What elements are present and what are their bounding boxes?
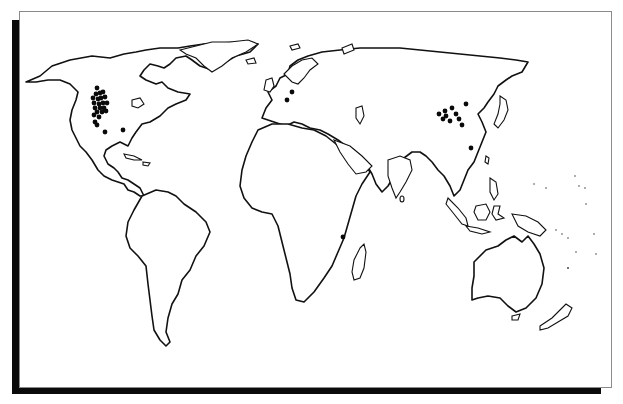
site-marker-dot: [105, 101, 110, 106]
site-marker-dot: [92, 101, 97, 106]
site-marker-dot: [454, 112, 459, 117]
cuba: [124, 154, 142, 160]
philippines: [490, 178, 498, 200]
site-marker-dot: [290, 90, 295, 95]
new-zealand: [540, 304, 572, 330]
site-marker-dot: [103, 130, 108, 135]
site-marker-dot: [341, 235, 346, 240]
site-marker-dot: [97, 115, 102, 120]
java: [466, 226, 490, 234]
site-marker-dot: [285, 98, 290, 103]
pacific-island-specks: [533, 175, 597, 269]
site-marker-dot: [100, 110, 105, 115]
site-marker-dot: [437, 112, 442, 117]
site-marker-dot: [103, 95, 108, 100]
site-marker-dot: [95, 86, 100, 91]
sumatra: [446, 198, 468, 226]
new-guinea: [512, 214, 546, 236]
site-marker-dot: [441, 117, 446, 122]
site-marker-dot: [92, 113, 97, 118]
world-map: [0, 0, 623, 404]
sri-lanka: [400, 196, 404, 202]
continents: [26, 40, 572, 346]
madagascar: [352, 244, 366, 280]
site-marker-dot: [94, 92, 99, 97]
site-marker-dot: [469, 146, 474, 151]
japan: [494, 96, 508, 128]
sulawesi: [492, 206, 504, 220]
site-marker-dot: [104, 109, 109, 114]
south-america: [126, 190, 210, 346]
svalbard: [290, 44, 300, 50]
greenland: [180, 40, 258, 72]
borneo: [474, 204, 490, 220]
australia: [472, 236, 544, 312]
site-marker-dot: [97, 102, 102, 107]
site-marker-dot: [448, 119, 453, 124]
tasmania: [512, 314, 520, 320]
site-marker-dot: [121, 128, 126, 133]
site-marker-dot: [101, 90, 106, 95]
iceland: [246, 58, 256, 64]
site-marker-dot: [443, 109, 448, 114]
indian-subcontinent: [388, 156, 412, 198]
site-marker-dot: [450, 106, 455, 111]
site-marker-dot: [457, 117, 462, 122]
site-marker-dot: [91, 96, 96, 101]
site-marker-dot: [95, 123, 100, 128]
site-marker-dot: [99, 96, 104, 101]
site-marker-dot: [464, 102, 469, 107]
hispaniola: [143, 162, 150, 166]
site-marker-dot: [460, 123, 465, 128]
taiwan: [485, 156, 489, 164]
